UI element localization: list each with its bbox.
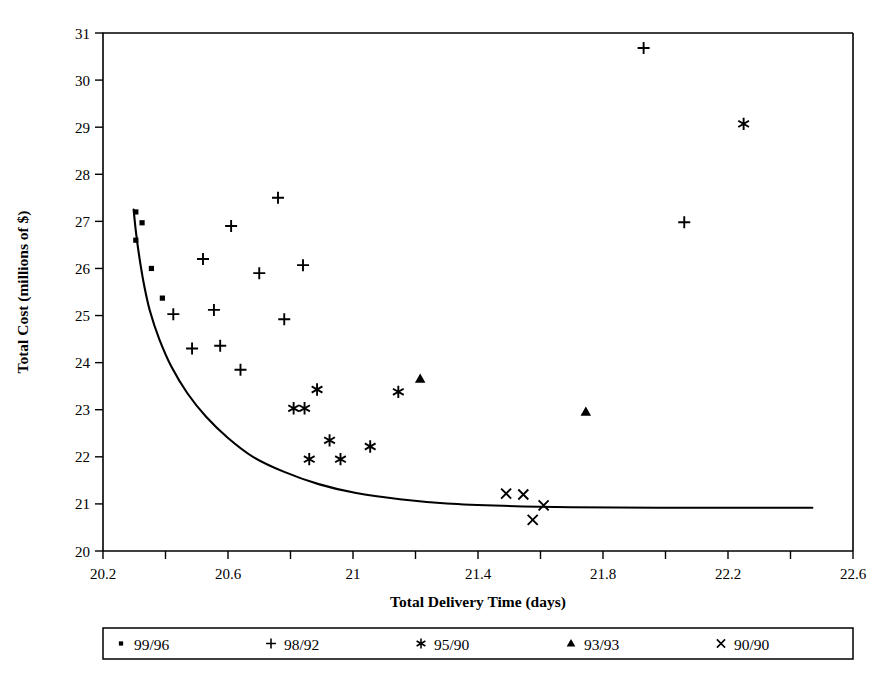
- legend-label: 98/92: [284, 636, 319, 653]
- x-tick-label: 20.6: [215, 566, 242, 582]
- y-tick-label: 31: [75, 26, 90, 42]
- y-tick-label: 24: [75, 355, 91, 371]
- y-tick-label: 30: [75, 73, 90, 89]
- square-marker: [133, 209, 138, 214]
- scatter-plot: 202122232425262728293031 20.220.62121.42…: [0, 0, 892, 673]
- y-tick-label: 29: [75, 120, 90, 136]
- square-marker: [133, 238, 138, 243]
- x-tick-label: 21: [346, 566, 361, 582]
- y-tick-label: 22: [75, 449, 90, 465]
- square-marker: [139, 220, 144, 225]
- legend-label: 95/90: [434, 636, 470, 653]
- square-marker: [160, 296, 165, 301]
- x-axis-title: Total Delivery Time (days): [390, 593, 566, 611]
- x-tick-label: 21.4: [465, 566, 492, 582]
- square-marker: [149, 266, 154, 271]
- x-tick-label: 22.6: [840, 566, 867, 582]
- y-tick-label: 21: [75, 496, 90, 512]
- chart-figure: 202122232425262728293031 20.220.62121.42…: [0, 0, 892, 673]
- y-tick-label: 26: [75, 261, 91, 277]
- x-tick-label: 22.2: [715, 566, 741, 582]
- legend-label: 99/96: [134, 636, 170, 653]
- legend-label: 90/90: [734, 636, 770, 653]
- x-tick-label: 20.2: [90, 566, 116, 582]
- y-tick-label: 25: [75, 308, 90, 324]
- square-marker: [119, 641, 123, 645]
- x-tick-label: 21.8: [590, 566, 616, 582]
- chart-background: [0, 0, 892, 673]
- y-tick-label: 20: [75, 544, 90, 560]
- y-axis-title: Total Cost (millions of $): [14, 210, 32, 373]
- y-tick-label: 28: [75, 167, 90, 183]
- y-tick-label: 27: [75, 214, 91, 230]
- legend-label: 93/93: [584, 636, 620, 653]
- y-tick-label: 23: [75, 402, 90, 418]
